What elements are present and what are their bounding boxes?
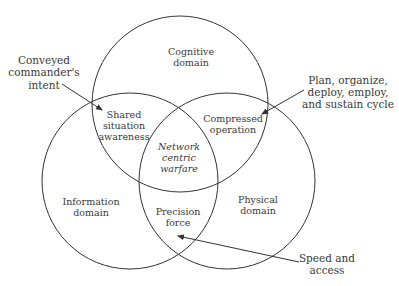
svg-text:Network: Network	[157, 141, 200, 152]
svg-text:Plan, organize,: Plan, organize,	[308, 74, 388, 86]
cycle-annotation: Plan, organize, deploy, employ, and sust…	[262, 74, 394, 114]
svg-text:domain: domain	[240, 205, 276, 216]
svg-text:warfare: warfare	[160, 163, 198, 174]
speed-annotation: Speed and access	[178, 236, 355, 276]
svg-text:commander's: commander's	[8, 66, 79, 78]
svg-text:centric: centric	[162, 152, 196, 163]
svg-text:Shared: Shared	[107, 109, 142, 120]
svg-text:intent: intent	[28, 79, 60, 91]
physical-domain-label: Physical domain	[238, 194, 278, 216]
intent-arrow	[62, 84, 102, 110]
svg-text:Information: Information	[62, 196, 119, 207]
information-domain-label: Information domain	[62, 196, 119, 218]
network-centric-warfare-label: Network centric warfare	[157, 141, 200, 174]
svg-text:domain: domain	[73, 207, 109, 218]
svg-text:Cognitive: Cognitive	[168, 46, 214, 57]
svg-text:force: force	[166, 217, 191, 228]
svg-text:Compressed: Compressed	[203, 113, 263, 124]
cognitive-domain-label: Cognitive domain	[168, 46, 214, 68]
svg-text:domain: domain	[173, 57, 209, 68]
svg-text:awareness: awareness	[98, 131, 149, 142]
compressed-operation-label: Compressed operation	[203, 113, 263, 135]
precision-force-label: Precision force	[156, 206, 201, 228]
shared-situation-awareness-label: Shared situation awareness	[98, 109, 149, 142]
svg-text:operation: operation	[210, 124, 256, 135]
svg-text:Precision: Precision	[156, 206, 201, 217]
svg-text:Conveyed: Conveyed	[18, 54, 70, 66]
svg-text:deploy, employ,: deploy, employ,	[308, 86, 389, 98]
speed-arrow	[178, 236, 299, 262]
venn-diagram: Cognitive domain Information domain Phys…	[0, 0, 399, 286]
svg-text:Speed and: Speed and	[299, 252, 355, 264]
svg-text:and sustain cycle: and sustain cycle	[302, 98, 394, 110]
svg-text:Physical: Physical	[238, 194, 278, 205]
intent-annotation: Conveyed commander's intent	[8, 54, 102, 110]
svg-text:access: access	[309, 264, 344, 276]
svg-text:situation: situation	[103, 120, 145, 131]
